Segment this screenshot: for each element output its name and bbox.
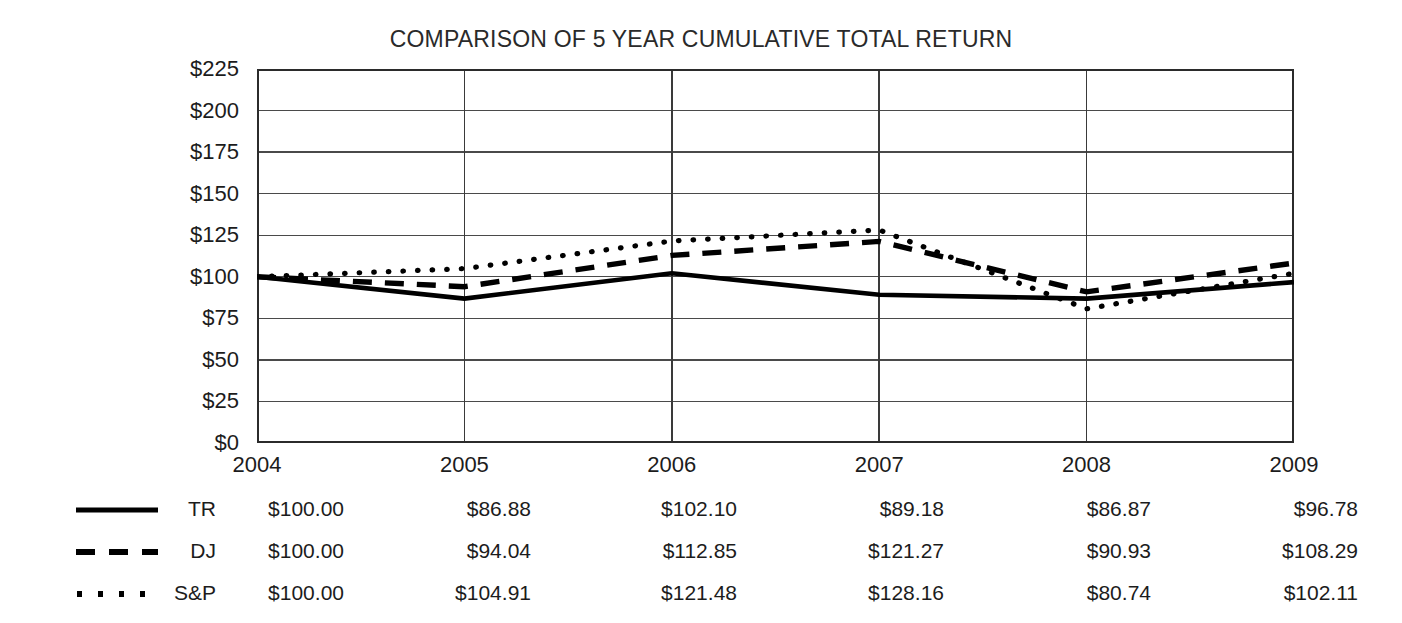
cell-dj-2009: $108.29 (1238, 534, 1358, 568)
y-tick-0: $0 (141, 432, 239, 454)
plot-svg (257, 69, 1294, 443)
chart-title: COMPARISON OF 5 YEAR CUMULATIVE TOTAL RE… (0, 26, 1402, 53)
cell-dj-2008: $90.93 (1031, 534, 1151, 568)
y-tick-200: $200 (141, 100, 239, 122)
cell-sp-2004: $100.00 (224, 576, 344, 610)
y-tick-225: $225 (141, 58, 239, 80)
x-tick-2008: 2008 (1062, 452, 1111, 478)
cell-sp-2009: $102.11 (1238, 576, 1358, 610)
dotted-line-icon (74, 584, 160, 604)
y-tick-75: $75 (141, 307, 239, 329)
cell-sp-2008: $80.74 (1031, 576, 1151, 610)
legend-data-table: TR $100.00 $86.88 $102.10 $89.18 $86.87 … (0, 492, 1402, 612)
y-tick-150: $150 (141, 183, 239, 205)
cell-dj-2004: $100.00 (224, 534, 344, 568)
legend-label-tr: TR (166, 492, 216, 526)
x-tick-2007: 2007 (855, 452, 904, 478)
vertical-gridlines (464, 69, 1086, 443)
legend-label-dj: DJ (166, 534, 216, 568)
cell-sp-2007: $128.16 (824, 576, 944, 610)
x-axis-labels: 2004 2005 2006 2007 2008 2009 (257, 452, 1294, 482)
cell-tr-2005: $86.88 (411, 492, 531, 526)
y-tick-175: $175 (141, 141, 239, 163)
chart-figure: COMPARISON OF 5 YEAR CUMULATIVE TOTAL RE… (0, 0, 1402, 623)
x-tick-2005: 2005 (440, 452, 489, 478)
cell-dj-2007: $121.27 (824, 534, 944, 568)
cell-tr-2009: $96.78 (1238, 492, 1358, 526)
cell-tr-2007: $89.18 (824, 492, 944, 526)
cell-dj-2005: $94.04 (411, 534, 531, 568)
plot-frame (258, 70, 1293, 442)
y-tick-125: $125 (141, 224, 239, 246)
cell-tr-2006: $102.10 (617, 492, 737, 526)
x-tick-2009: 2009 (1270, 452, 1319, 478)
horizontal-gridlines (257, 111, 1294, 402)
x-tick-2004: 2004 (233, 452, 282, 478)
plot-area (257, 69, 1294, 443)
y-axis-labels: $225 $200 $175 $150 $125 $100 $75 $50 $2… (150, 69, 248, 443)
y-tick-100: $100 (141, 266, 239, 288)
legend-row-dj: DJ $100.00 $94.04 $112.85 $121.27 $90.93… (0, 534, 1402, 572)
x-tick-2006: 2006 (647, 452, 696, 478)
legend-label-sp: S&P (166, 576, 216, 610)
solid-line-icon (74, 500, 160, 520)
y-tick-25: $25 (141, 390, 239, 412)
cell-dj-2006: $112.85 (617, 534, 737, 568)
cell-tr-2008: $86.87 (1031, 492, 1151, 526)
cell-sp-2006: $121.48 (617, 576, 737, 610)
legend-row-tr: TR $100.00 $86.88 $102.10 $89.18 $86.87 … (0, 492, 1402, 530)
series-line-sp (257, 230, 1294, 309)
dashed-line-icon (74, 542, 160, 562)
y-tick-50: $50 (141, 349, 239, 371)
cell-sp-2005: $104.91 (411, 576, 531, 610)
legend-row-sp: S&P $100.00 $104.91 $121.48 $128.16 $80.… (0, 576, 1402, 614)
cell-tr-2004: $100.00 (224, 492, 344, 526)
